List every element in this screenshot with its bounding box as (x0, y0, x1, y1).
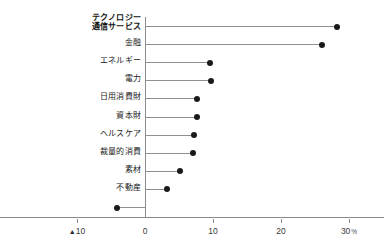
tick-value: 10 (208, 226, 217, 236)
axis-unit-label: % (351, 228, 357, 235)
x-axis-tick-label: 10 (208, 226, 217, 236)
value-dot (207, 60, 213, 66)
category-label: 不動産 (13, 183, 141, 192)
chart-row: ヘルスケア (0, 126, 384, 144)
value-stem (145, 26, 337, 27)
value-stem (145, 153, 193, 154)
value-stem (145, 98, 197, 99)
value-dot (190, 150, 196, 156)
value-dot (194, 96, 200, 102)
value-stem (145, 117, 197, 118)
category-label: エネルギー (13, 56, 141, 65)
x-axis-tick-mark (349, 219, 350, 223)
value-dot (319, 42, 325, 48)
value-dot (191, 132, 197, 138)
chart-row: 資本財 (0, 108, 384, 126)
x-axis-tick-mark (77, 219, 78, 223)
chart-row: 素材 (0, 162, 384, 180)
value-stem (145, 135, 194, 136)
chart-row: エネルギー (0, 53, 384, 71)
x-axis-tick-label: ▲10 (69, 226, 85, 236)
chart-row: テクノロジー 通信サービス (0, 17, 384, 35)
tick-value: 20 (276, 226, 285, 236)
value-dot (177, 168, 183, 174)
x-axis-tick-label: 20 (276, 226, 285, 236)
chart-row (0, 198, 384, 216)
tick-value: 0 (143, 226, 148, 236)
value-stem (145, 44, 322, 45)
x-axis-tick-label: 30% (341, 226, 357, 236)
category-label: 金融 (13, 38, 141, 47)
tick-value: 10 (76, 226, 85, 236)
value-dot (334, 24, 340, 30)
chart-row: 日用消費財 (0, 89, 384, 107)
category-label: テクノロジー 通信サービス (13, 13, 141, 31)
value-dot (164, 186, 170, 192)
category-label: 素材 (13, 165, 141, 174)
negative-triangle-icon: ▲ (69, 228, 76, 235)
category-label: ヘルスケア (13, 129, 141, 138)
x-axis-tick-mark (281, 219, 282, 223)
value-dot (114, 205, 120, 211)
category-label: 資本財 (13, 111, 141, 120)
category-label: 裁量的消費 (13, 147, 141, 156)
tick-value: 30 (341, 226, 350, 236)
value-stem (145, 62, 210, 63)
value-dot (208, 78, 214, 84)
value-stem (117, 207, 145, 208)
lollipop-chart: テクノロジー 通信サービス金融エネルギー電力日用消費財資本財ヘルスケア裁量的消費… (0, 0, 384, 248)
chart-row: 電力 (0, 71, 384, 89)
chart-row: 金融 (0, 35, 384, 53)
category-label: 電力 (13, 74, 141, 83)
category-label: 日用消費財 (13, 92, 141, 101)
x-axis-tick-mark (213, 219, 214, 223)
chart-row: 裁量的消費 (0, 144, 384, 162)
value-stem (145, 171, 180, 172)
value-stem (145, 80, 211, 81)
x-axis-baseline (0, 217, 384, 218)
value-dot (194, 114, 200, 120)
chart-row: 不動産 (0, 180, 384, 198)
x-axis-tick-label: 0 (143, 226, 148, 236)
